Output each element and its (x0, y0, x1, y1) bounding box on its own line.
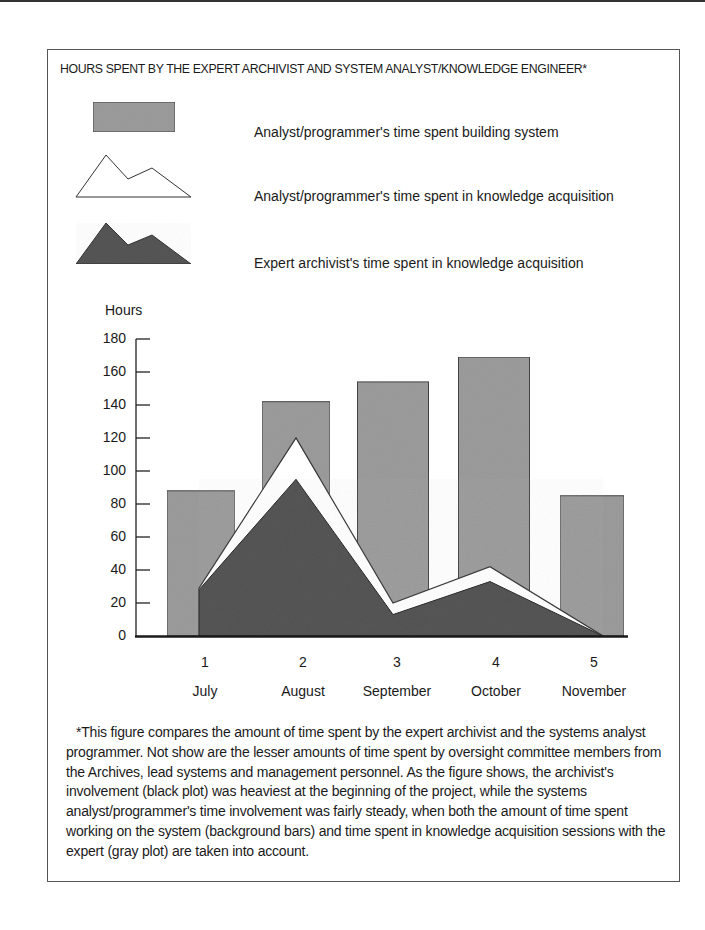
y-tick-label: 100 (96, 462, 126, 478)
x-tick-month: November (544, 683, 644, 699)
x-tick-number: 2 (263, 654, 343, 670)
y-tick-label: 60 (96, 528, 126, 544)
y-axis (136, 339, 150, 636)
x-tick-month: October (446, 683, 546, 699)
x-tick-month: August (253, 683, 353, 699)
y-tick-label: 140 (96, 396, 126, 412)
x-tick-number: 5 (554, 654, 634, 670)
dark-mountain-icon (76, 223, 191, 264)
x-tick-number: 4 (456, 654, 536, 670)
y-tick-label: 180 (96, 330, 126, 346)
y-tick-label: 40 (96, 561, 126, 577)
x-tick-number: 3 (357, 654, 437, 670)
y-tick-label: 20 (96, 594, 126, 610)
y-axis-label: Hours (105, 302, 142, 318)
x-tick-month: July (155, 683, 255, 699)
white-mountain-icon (76, 155, 191, 197)
figure-caption: *This figure compares the amount of time… (66, 723, 666, 862)
gray-rectangle-icon (93, 102, 175, 132)
y-tick-label: 120 (96, 429, 126, 445)
y-tick-label: 80 (96, 495, 126, 511)
x-tick-month: September (347, 683, 447, 699)
y-tick-label: 0 (96, 627, 126, 643)
y-tick-label: 160 (96, 363, 126, 379)
x-tick-number: 1 (165, 654, 245, 670)
caption-text: *This figure compares the amount of time… (66, 723, 666, 862)
